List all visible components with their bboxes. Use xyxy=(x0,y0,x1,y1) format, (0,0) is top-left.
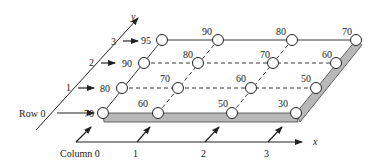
value-r2-c1: 80 xyxy=(183,49,193,60)
value-r0-c1: 60 xyxy=(138,98,148,109)
value-r3-c0: 95 xyxy=(141,35,151,46)
node-r3-c0 xyxy=(157,35,168,46)
value-r0-c3: 30 xyxy=(278,98,288,109)
value-r2-c0: 90 xyxy=(122,58,132,69)
row-label-0: Row 0 xyxy=(19,108,45,119)
value-r0-c2: 50 xyxy=(218,98,228,109)
value-r3-c1: 90 xyxy=(202,26,212,37)
value-r1-c3: 50 xyxy=(301,73,311,84)
value-r3-c3: 70 xyxy=(342,26,352,37)
grid-svg: y x Row 0 1 2 3 Column 0 1 2 3 xyxy=(0,0,384,161)
value-r3-c2: 80 xyxy=(276,26,286,37)
y-axis-label: y xyxy=(130,11,136,22)
column-label-3: 3 xyxy=(264,148,269,159)
column-label-2: 2 xyxy=(201,148,206,159)
value-r1-c1: 70 xyxy=(160,73,170,84)
node-r2-c3 xyxy=(331,58,342,69)
value-r1-c2: 60 xyxy=(236,73,246,84)
node-r2-c0 xyxy=(139,58,150,69)
x-axis-label: x xyxy=(312,136,318,147)
column-arrows xyxy=(76,127,282,142)
column-label-1: 1 xyxy=(133,148,138,159)
value-r2-c3: 60 xyxy=(322,49,332,60)
node-r3-c3 xyxy=(351,35,362,46)
node-r0-c2 xyxy=(227,108,238,119)
node-r2-c1 xyxy=(193,58,204,69)
node-r0-c1 xyxy=(153,108,164,119)
node-r1-c3 xyxy=(311,83,322,94)
grid-diagram: y x Row 0 1 2 3 Column 0 1 2 3 xyxy=(0,0,384,161)
node-r0-c3 xyxy=(291,108,302,119)
node-r1-c2 xyxy=(246,83,257,94)
node-r1-c1 xyxy=(173,83,184,94)
row-arrows xyxy=(57,41,138,113)
node-r1-c0 xyxy=(117,83,128,94)
value-r2-c2: 70 xyxy=(260,49,270,60)
value-r0-c0: 70 xyxy=(84,108,94,119)
column-label-0: Column 0 xyxy=(60,148,100,159)
node-r3-c2 xyxy=(287,35,298,46)
row-label-3: 3 xyxy=(111,36,116,47)
value-r1-c0: 80 xyxy=(100,83,110,94)
node-r3-c1 xyxy=(213,35,224,46)
row-label-2: 2 xyxy=(89,57,94,68)
node-r0-c0 xyxy=(98,108,109,119)
row-label-1: 1 xyxy=(66,82,71,93)
